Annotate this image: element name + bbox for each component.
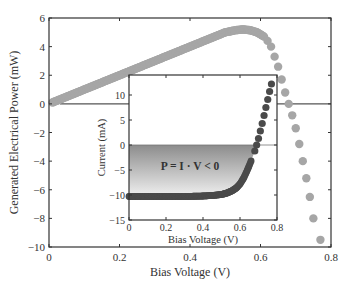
main-y-tick-label: 4 [40, 41, 46, 53]
inset-y-tick-label: −15 [109, 215, 125, 226]
main-y-tick-label: 2 [40, 69, 46, 81]
main-y-tick-label: 0 [40, 98, 46, 110]
main-y-tick-label: −2 [33, 127, 45, 139]
main-x-tick-label: 0.6 [254, 251, 268, 263]
inset-x-tick-label: 0.8 [271, 222, 284, 233]
main-x-tick-label: 0.4 [183, 251, 197, 263]
main-x-tick-label: 0.2 [113, 251, 127, 263]
inset-y-tick-label: 0 [120, 140, 125, 151]
inset-x-tick-label: 0.2 [160, 222, 173, 233]
main-y-tick-label: −4 [33, 155, 45, 167]
main-y-tick-label: −10 [28, 241, 46, 253]
main-x-tick-label: 0.8 [324, 251, 338, 263]
main-y-tick-label: −6 [33, 184, 45, 196]
inset-x-tick-label: 0 [127, 222, 132, 233]
inset-plot: P = I · V < 0 00.20.40.60.8 1050−5−10−15… [96, 75, 283, 246]
inset-x-axis-title: Bias Voltage (V) [168, 234, 239, 246]
main-x-axis-title: Bias Voltage (V) [150, 265, 230, 279]
power-voltage-chart: 00.20.40.60.8 6420−2−4−6−8−10 Bias Volta… [0, 0, 354, 290]
main-y-axis-title: Generated Electrical Power (mW) [7, 51, 21, 215]
inset-y-axis-title: Current (mA) [96, 118, 108, 176]
inset-y-tick-label: −10 [109, 190, 125, 201]
inset-x-tick-label: 0.4 [197, 222, 210, 233]
main-y-tick-label: 6 [40, 12, 46, 24]
main-y-tick-label: −8 [33, 212, 45, 224]
main-x-tick-label: 0 [46, 251, 52, 263]
inset-y-tick-label: −5 [114, 165, 125, 176]
inset-x-tick-label: 0.6 [234, 222, 247, 233]
power-annotation: P = I · V < 0 [161, 160, 220, 172]
inset-y-tick-label: 5 [120, 115, 125, 126]
inset-y-tick-label: 10 [115, 90, 125, 101]
